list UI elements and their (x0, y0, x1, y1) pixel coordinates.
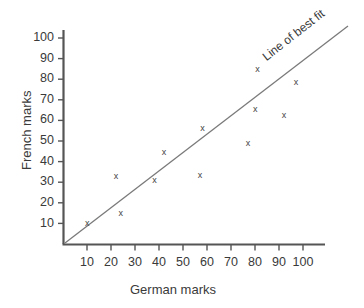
x-tick-label: 100 (288, 256, 318, 269)
y-tick-label: 100 (26, 31, 54, 44)
y-tick-label: 20 (26, 196, 54, 209)
data-point: x (196, 171, 204, 179)
data-point: x (83, 219, 91, 227)
data-point: x (292, 78, 300, 86)
x-axis-title: German marks (130, 283, 216, 296)
data-point: x (117, 209, 125, 217)
y-tick-label: 30 (26, 175, 54, 188)
data-point: x (198, 124, 206, 132)
data-point: x (244, 139, 252, 147)
data-point: x (254, 65, 262, 73)
data-point: x (150, 176, 158, 184)
line-of-best-fit (65, 26, 348, 243)
y-axis-title: French marks (20, 91, 33, 170)
data-point: x (160, 148, 168, 156)
data-point: x (112, 172, 120, 180)
y-tick-label: 80 (26, 72, 54, 85)
y-tick-label: 90 (26, 52, 54, 65)
data-point: x (280, 111, 288, 119)
scatter-chart: 100 90 80 70 60 50 40 30 20 10 10 20 30 … (0, 0, 364, 308)
y-tick-label: 10 (26, 217, 54, 230)
data-point: x (251, 105, 259, 113)
